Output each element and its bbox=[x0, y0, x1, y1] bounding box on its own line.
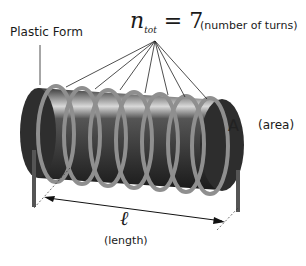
n-subscript: tot bbox=[144, 25, 157, 35]
n-symbol: n bbox=[130, 8, 144, 33]
n-value: = 7 bbox=[157, 8, 203, 33]
area-symbol: A bbox=[228, 116, 239, 135]
turns-note: (number of turns) bbox=[200, 19, 297, 32]
length-symbol: ℓ bbox=[120, 206, 128, 230]
area-note: (area) bbox=[258, 118, 294, 132]
length-note: (length) bbox=[104, 234, 148, 247]
plastic-form-label: Plastic Form bbox=[10, 25, 83, 39]
turns-equation: ntot = 7 bbox=[130, 8, 203, 33]
solenoid-diagram bbox=[0, 0, 306, 266]
plastic-form-cylinder bbox=[20, 88, 244, 191]
